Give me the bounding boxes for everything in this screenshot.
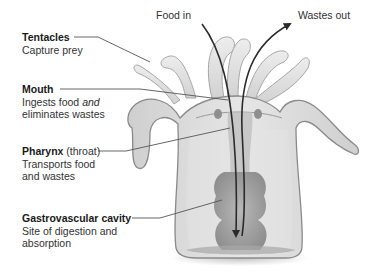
pharynx-label: Pharynx (throat) Transports food and was…	[22, 145, 100, 183]
tentacles-label: Tentacles Capture prey	[22, 31, 83, 56]
wastes-out-label: Wastes out	[298, 9, 350, 21]
hydra-diagram: Food in Wastes out Tentacles Capture pre…	[0, 0, 374, 271]
gastrovascular-cavity-desc-line2: absorption	[22, 237, 71, 249]
tentacles-desc: Capture prey	[22, 44, 83, 56]
tentacles-title: Tentacles	[22, 31, 70, 43]
pharynx-desc-line1: Transports food	[22, 158, 95, 170]
gastrovascular-cavity-title: Gastrovascular cavity	[22, 212, 131, 224]
mouth-title: Mouth	[22, 83, 54, 95]
pharynx-tube	[228, 112, 253, 180]
gastrovascular-cavity-shape	[214, 172, 267, 250]
mouth-desc-pre: Ingests food	[22, 96, 82, 108]
pharynx-title-suffix: (throat)	[63, 145, 100, 157]
gastrovascular-cavity-desc-line1: Site of digestion and	[22, 225, 117, 237]
mouth-desc-line2: eliminates wastes	[22, 108, 105, 120]
pharynx-title: Pharynx	[22, 145, 63, 157]
mouth-label: Mouth Ingests food and eliminates wastes	[22, 83, 105, 121]
tentacles-group	[134, 37, 309, 104]
tentacles-leader	[74, 37, 150, 62]
pharynx-desc-line2: and wastes	[22, 170, 75, 182]
food-in-label: Food in	[156, 9, 191, 21]
mouth-desc-emphasis: and	[82, 96, 100, 108]
gastrovascular-cavity-label: Gastrovascular cavity Site of digestion …	[22, 212, 131, 250]
